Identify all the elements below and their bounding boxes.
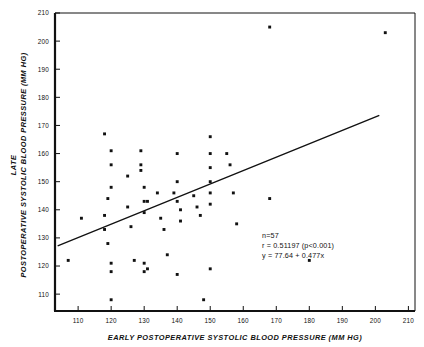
data-point (146, 267, 149, 270)
data-point (139, 149, 142, 152)
x-tick-label: 150 (205, 317, 217, 324)
y-axis-title-line1: LATE (9, 154, 18, 175)
data-point (110, 149, 113, 152)
data-point (143, 200, 146, 203)
data-point (103, 214, 106, 217)
data-point (106, 197, 109, 200)
x-tick-label: 120 (106, 317, 118, 324)
data-point (126, 206, 129, 209)
plot-frame (54, 13, 415, 311)
statistics-annotation: n=57 r = 0.51197 (p<0.001) y = 77.64 + 0… (262, 231, 334, 260)
x-tick-label: 110 (73, 317, 84, 324)
data-point (110, 186, 113, 189)
data-point (176, 152, 179, 155)
data-point (209, 191, 212, 194)
data-point (384, 31, 387, 34)
data-point (196, 206, 199, 209)
data-point (172, 191, 175, 194)
x-tick-label: 160 (238, 317, 250, 324)
chart-canvas: 110120130140150160170180190200210 110120… (0, 0, 424, 347)
data-point (103, 132, 106, 135)
annotation-equation: y = 77.64 + 0.477x (262, 251, 324, 260)
data-point (143, 186, 146, 189)
y-axis-title: LATE POSTOPERATIVE SYSTOLIC BLOOD PRESSU… (9, 52, 28, 277)
data-point (202, 298, 205, 301)
data-point (139, 169, 142, 172)
x-axis-title: EARLY POSTOPERATIVE SYSTOLIC BLOOD PRESS… (108, 333, 362, 342)
x-tick-label: 170 (271, 317, 283, 324)
data-point (67, 259, 70, 262)
regression-line (58, 116, 378, 246)
y-tick-label: 160 (38, 150, 50, 157)
data-point (209, 152, 212, 155)
x-tick-label: 200 (370, 317, 382, 324)
data-point (268, 26, 271, 29)
annotation-n: n=57 (262, 231, 279, 240)
x-tick-label: 140 (172, 317, 184, 324)
data-point (103, 228, 106, 231)
data-point (176, 200, 179, 203)
data-point (209, 180, 212, 183)
y-axis-title-line2: POSTOPERATIVE SYSTOLIC BLOOD PRESSURE (M… (19, 52, 28, 277)
y-tick-label: 150 (38, 178, 50, 185)
y-tick-label: 120 (38, 262, 50, 269)
y-tick-label: 180 (38, 94, 50, 101)
data-point (163, 228, 166, 231)
data-point (143, 270, 146, 273)
y-tick-label: 110 (38, 291, 49, 298)
data-point (110, 298, 113, 301)
y-tick-label: 190 (38, 66, 50, 73)
x-tick-label: 180 (304, 317, 316, 324)
data-point (166, 253, 169, 256)
data-point (179, 208, 182, 211)
y-tick-label: 130 (38, 234, 50, 241)
scatter-plot-figure: 110120130140150160170180190200210 110120… (0, 0, 424, 347)
annotation-r: r = 0.51197 (p<0.001) (262, 241, 334, 250)
data-point (268, 197, 271, 200)
data-points-group (67, 26, 387, 302)
data-point (130, 225, 133, 228)
regression-line-group (58, 116, 378, 246)
data-point (159, 217, 162, 220)
data-point (133, 259, 136, 262)
data-point (235, 222, 238, 225)
y-tick-label: 170 (38, 122, 50, 129)
data-point (110, 163, 113, 166)
data-point (209, 203, 212, 206)
data-point (199, 214, 202, 217)
data-point (209, 166, 212, 169)
data-point (192, 194, 195, 197)
x-tick-label: 210 (403, 317, 415, 324)
data-point (176, 180, 179, 183)
x-tick-label: 130 (139, 317, 151, 324)
x-axis-ticks: 110120130140150160170180190200210 (73, 306, 415, 324)
data-point (179, 220, 182, 223)
data-point (176, 273, 179, 276)
data-point (146, 200, 149, 203)
data-point (126, 175, 129, 178)
data-point (80, 217, 83, 220)
data-point (209, 135, 212, 138)
y-tick-label: 210 (38, 9, 50, 16)
data-point (156, 191, 159, 194)
x-tick-label: 190 (337, 317, 349, 324)
data-point (225, 152, 228, 155)
data-point (209, 267, 212, 270)
data-point (143, 262, 146, 265)
y-axis-ticks: 110120130140150160170180190200210 (38, 9, 60, 297)
data-point (232, 191, 235, 194)
data-point (106, 242, 109, 245)
y-tick-label: 200 (38, 38, 50, 45)
data-point (229, 163, 232, 166)
data-point (110, 270, 113, 273)
data-point (139, 163, 142, 166)
data-point (110, 262, 113, 265)
y-tick-label: 140 (38, 206, 50, 213)
